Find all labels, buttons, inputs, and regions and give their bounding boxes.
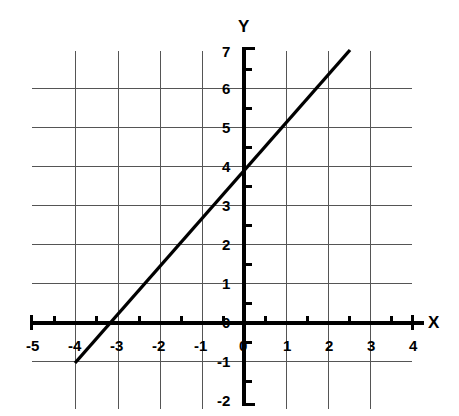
y-tick-label-0: 0 (222, 315, 230, 330)
y-tick-label-5: 5 (222, 120, 230, 135)
y-tick-label--1: -1 (217, 354, 230, 369)
x-tick-label--4: -4 (68, 338, 81, 353)
x-tick-label--2: -2 (152, 338, 165, 353)
x-tick-label-0: 0 (239, 338, 247, 353)
x-tick-label-4: 4 (409, 338, 417, 353)
x-axis-label: X (428, 314, 439, 331)
y-axis-label: Y (238, 18, 249, 35)
y-tick-label-7: 7 (222, 44, 230, 59)
y-tick-label-1: 1 (222, 276, 230, 291)
x-tick-label-2: 2 (325, 338, 333, 353)
x-tick-label--1: -1 (194, 338, 207, 353)
x-tick-label--5: -5 (26, 338, 39, 353)
y-tick-label-4: 4 (222, 159, 230, 174)
plotted-line-series (75, 50, 350, 363)
y-tick-label--2: -2 (217, 393, 230, 408)
x-tick-label-3: 3 (367, 338, 375, 353)
coordinate-plane-graph: -5 -4 -3 -2 -1 0 1 2 3 4 7 6 5 4 3 2 1 0… (0, 0, 459, 416)
y-tick-label-2: 2 (222, 237, 230, 252)
y-tick-label-6: 6 (222, 81, 230, 96)
line-y-equals-1p25x-plus-4 (75, 50, 350, 363)
x-tick-label-1: 1 (283, 338, 291, 353)
y-tick-label-3: 3 (222, 198, 230, 213)
x-tick-label--3: -3 (110, 338, 123, 353)
